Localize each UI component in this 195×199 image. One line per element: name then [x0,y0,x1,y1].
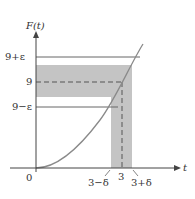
y-tick-9-minus-epsilon: 9−ε [12,101,32,112]
y-tick-9-plus-epsilon: 9+ε [5,51,25,62]
origin-label: 0 [26,172,32,183]
epsilon-delta-diagram: F(t) t 9+ε 9 9−ε 0 3−δ 3 3+δ [0,0,195,199]
y-axis-arrow-icon [33,31,39,38]
y-tick-9: 9 [26,76,32,87]
x-tick-3-plus-delta: 3+δ [131,177,152,188]
leader-line-3-minus-delta [105,170,110,176]
x-tick-3: 3 [118,171,124,182]
leader-line-3-plus-delta [133,170,138,176]
y-axis-label: F(t) [25,20,45,31]
x-axis-label: t [183,162,188,173]
x-tick-3-minus-delta: 3−δ [88,177,109,188]
x-axis-arrow-icon [174,165,181,171]
